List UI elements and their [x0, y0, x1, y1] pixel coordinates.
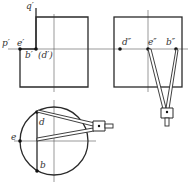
label-q-prime: q′ [26, 1, 34, 11]
label-b: b [40, 160, 46, 170]
point-e [18, 139, 22, 143]
point-d-double-prime [118, 47, 122, 51]
label-b-prime: b′ [25, 50, 33, 60]
front-view: q′ p′ e′ b′ (d′) [2, 1, 96, 92]
side-view: d″ e″ b″ [96, 10, 188, 126]
label-e-double-prime: e″ [148, 37, 157, 47]
label-d: d [39, 117, 45, 127]
label-d-prime: (d′) [38, 50, 53, 60]
point-b [35, 169, 39, 173]
top-view: d e b [11, 100, 113, 182]
label-p-prime: p′ [2, 38, 10, 48]
label-b-double-prime: b″ [166, 37, 176, 47]
projection-diagram: q′ p′ e′ b′ (d′) d″ e″ b″ d e [0, 0, 188, 189]
label-d-double-prime: d″ [122, 37, 132, 47]
label-e-prime: e′ [17, 38, 24, 48]
label-e: e [11, 132, 16, 142]
